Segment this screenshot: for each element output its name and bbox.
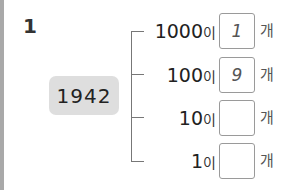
unit-label: 개 — [260, 143, 274, 179]
place-value-row: 100이 9 개 — [140, 57, 286, 93]
place-value-row: 1000이 1 개 — [140, 13, 286, 49]
unit-label: 개 — [260, 13, 274, 49]
place-label: 100이 — [167, 57, 216, 93]
bracket-line — [131, 31, 132, 161]
answer-box[interactable]: 1 — [219, 13, 255, 49]
answer-box[interactable] — [219, 143, 255, 179]
answer-box[interactable]: 9 — [219, 57, 255, 93]
place-value-row: 1이 개 — [140, 143, 286, 179]
place-label: 10이 — [179, 100, 216, 136]
question-number: 1 — [23, 14, 37, 38]
given-number-box: 1942 — [49, 76, 119, 115]
place-label: 1000이 — [155, 13, 216, 49]
left-margin-stripe — [0, 0, 4, 190]
unit-label: 개 — [260, 100, 274, 136]
place-value-row: 10이 개 — [140, 100, 286, 136]
place-label: 1이 — [191, 143, 216, 179]
answer-box[interactable] — [219, 100, 255, 136]
unit-label: 개 — [260, 57, 274, 93]
given-number: 1942 — [57, 84, 112, 108]
